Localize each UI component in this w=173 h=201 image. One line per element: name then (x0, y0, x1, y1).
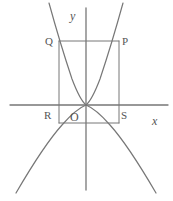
y-axis-label: y (70, 10, 75, 22)
point-label-S: S (121, 110, 127, 121)
point-label-R: R (44, 110, 51, 121)
geometry-figure: y x O Q P R S (0, 0, 173, 201)
point-label-P: P (122, 36, 128, 47)
point-label-Q: Q (45, 36, 53, 47)
origin-label: O (70, 111, 79, 123)
x-axis-label: x (152, 115, 157, 127)
figure-canvas (0, 0, 173, 201)
